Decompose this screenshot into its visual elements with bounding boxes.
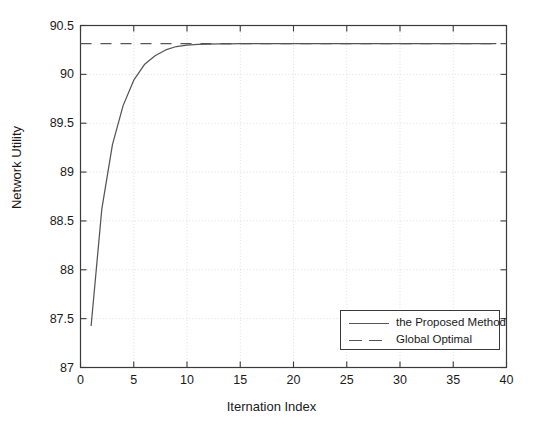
series-line-proposed-method bbox=[91, 44, 496, 326]
x-axis-label: Iternation Index bbox=[0, 399, 543, 414]
x-tick-label: 15 bbox=[233, 373, 247, 387]
y-tick-label: 87.5 bbox=[20, 312, 74, 326]
y-tick-label: 87 bbox=[20, 361, 74, 375]
x-tick-label: 5 bbox=[130, 373, 137, 387]
y-tick-label: 90.5 bbox=[20, 19, 74, 33]
x-tick-label: 25 bbox=[340, 373, 354, 387]
x-tick-label: 10 bbox=[180, 373, 194, 387]
plot-area bbox=[0, 0, 543, 429]
y-tick-label: 88 bbox=[20, 263, 74, 277]
y-tick-label: 88.5 bbox=[20, 214, 74, 228]
x-tick-label: 0 bbox=[77, 373, 84, 387]
chart-figure: Network Utility Iternation Index 0510152… bbox=[0, 0, 543, 429]
legend-entry-global-optimal: Global Optimal bbox=[341, 330, 499, 349]
y-tick-label: 89.5 bbox=[20, 116, 74, 130]
y-tick-label: 89 bbox=[20, 165, 74, 179]
legend-swatch-dashed-line bbox=[349, 334, 389, 346]
y-tick-label: 90 bbox=[20, 67, 74, 81]
x-tick-label: 35 bbox=[446, 373, 460, 387]
x-tick-label: 20 bbox=[287, 373, 301, 387]
x-tick-label: 40 bbox=[500, 373, 514, 387]
chart-legend: the Proposed Method Global Optimal bbox=[340, 310, 500, 350]
legend-label-proposed-method: the Proposed Method bbox=[396, 317, 506, 329]
legend-label-global-optimal: Global Optimal bbox=[396, 334, 472, 346]
x-tick-label: 30 bbox=[393, 373, 407, 387]
legend-swatch-solid-line bbox=[349, 317, 389, 329]
